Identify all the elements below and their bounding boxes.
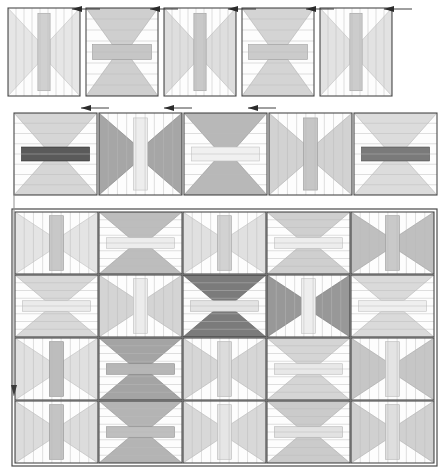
tile-center-bar <box>385 216 399 271</box>
quilt-tile[interactable] <box>267 212 350 274</box>
tile-artwork <box>351 212 434 274</box>
tile-artwork <box>267 401 350 463</box>
quilt-tile[interactable] <box>351 212 434 274</box>
tile-artwork <box>15 275 98 337</box>
tile-center-bar <box>49 342 63 397</box>
tile-artwork <box>242 8 314 96</box>
quilt-tile[interactable] <box>267 401 350 463</box>
quilt-tile[interactable] <box>99 212 182 274</box>
quilt-tile[interactable] <box>15 275 98 337</box>
tile-center-bar <box>194 13 206 90</box>
tile-center-bar <box>133 118 147 190</box>
quilt-tile[interactable] <box>164 8 236 96</box>
direction-arrow-icon <box>164 105 192 111</box>
quilt-tile[interactable] <box>14 113 97 195</box>
arrow-head <box>248 105 258 111</box>
quilt-tile[interactable] <box>267 338 350 400</box>
arrow-head <box>164 105 174 111</box>
tile-artwork <box>15 212 98 274</box>
quilt-tile[interactable] <box>354 113 437 195</box>
quilt-tile[interactable] <box>99 401 182 463</box>
quilt-tile[interactable] <box>183 275 266 337</box>
quilt-tile[interactable] <box>15 401 98 463</box>
tile-center-bar <box>303 118 317 190</box>
section-top-row <box>8 6 412 96</box>
tile-center-bar <box>350 13 362 90</box>
tile-center-bar <box>38 13 50 90</box>
tile-artwork <box>99 275 182 337</box>
quilt-tile[interactable] <box>15 212 98 274</box>
tile-artwork <box>15 338 98 400</box>
quilt-tile[interactable] <box>183 338 266 400</box>
quilt-tile[interactable] <box>183 212 266 274</box>
section-main-grid <box>12 209 437 466</box>
tile-center-bar <box>217 405 231 460</box>
tile-artwork <box>184 113 267 195</box>
quilt-tile[interactable] <box>8 8 80 96</box>
tile-artwork <box>99 212 182 274</box>
tile-center-bar <box>49 216 63 271</box>
tile-center-bar <box>301 279 315 334</box>
tile-artwork <box>183 212 266 274</box>
quilt-tile[interactable] <box>351 275 434 337</box>
tile-center-bar <box>217 342 231 397</box>
quilt-tile[interactable] <box>183 401 266 463</box>
tile-artwork <box>164 8 236 96</box>
tile-artwork <box>183 401 266 463</box>
tile-center-bar <box>217 216 231 271</box>
section-middle-row <box>14 105 437 195</box>
tile-artwork <box>267 275 350 337</box>
quilt-tile[interactable] <box>320 8 392 96</box>
quilt-tile[interactable] <box>351 401 434 463</box>
quilt-tile[interactable] <box>86 8 158 96</box>
quilt-tile[interactable] <box>351 338 434 400</box>
tile-artwork <box>351 275 434 337</box>
tile-artwork <box>99 338 182 400</box>
tile-artwork <box>183 338 266 400</box>
quilt-tile[interactable] <box>15 338 98 400</box>
quilt-tile[interactable] <box>184 113 267 195</box>
tile-artwork <box>320 8 392 96</box>
tile-artwork <box>267 212 350 274</box>
tile-center-bar <box>385 405 399 460</box>
tile-artwork <box>99 401 182 463</box>
tile-artwork <box>351 338 434 400</box>
tile-artwork <box>351 401 434 463</box>
direction-arrow-icon <box>248 105 276 111</box>
tile-artwork <box>183 275 266 337</box>
quilt-tile[interactable] <box>269 113 352 195</box>
tile-center-bar <box>49 405 63 460</box>
tile-artwork <box>267 338 350 400</box>
diagram-canvas <box>0 0 444 475</box>
tile-artwork <box>269 113 352 195</box>
tile-center-bar <box>133 279 147 334</box>
quilt-tile[interactable] <box>267 275 350 337</box>
tile-artwork <box>99 113 182 195</box>
quilt-tile[interactable] <box>99 338 182 400</box>
direction-arrow-icon <box>81 105 109 111</box>
arrow-head <box>81 105 91 111</box>
tile-artwork <box>8 8 80 96</box>
quilt-layout-svg <box>0 0 444 475</box>
quilt-tile[interactable] <box>242 8 314 96</box>
tile-center-bar <box>385 342 399 397</box>
quilt-tile[interactable] <box>99 275 182 337</box>
tile-artwork <box>86 8 158 96</box>
tile-artwork <box>14 113 97 195</box>
tile-artwork <box>354 113 437 195</box>
tile-artwork <box>15 401 98 463</box>
quilt-tile[interactable] <box>99 113 182 195</box>
